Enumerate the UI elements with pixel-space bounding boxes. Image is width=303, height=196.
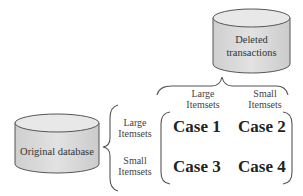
original-database-cylinder [15, 114, 99, 173]
row-header-small-line1: Small [112, 155, 158, 166]
deleted-label-line2: transactions [213, 46, 290, 59]
column-header-small-line2: Itemsets [240, 99, 290, 110]
column-header-large: Large Itemsets [178, 88, 228, 110]
column-header-small-line1: Small [240, 88, 290, 99]
row-header-large-line1: Large [112, 117, 158, 128]
deleted-label-line1: Deleted [213, 33, 290, 46]
column-header-large-line1: Large [178, 88, 228, 99]
original-database-label: Original database [15, 145, 99, 158]
column-header-large-line2: Itemsets [178, 99, 228, 110]
row-header-large: Large Itemsets [112, 117, 158, 139]
case-3: Case 3 [173, 157, 221, 177]
case-2: Case 2 [238, 117, 286, 137]
matrix-left-bracket [161, 112, 170, 184]
case-4: Case 4 [238, 157, 286, 177]
row-header-small-line2: Itemsets [112, 166, 158, 177]
case-1: Case 1 [173, 117, 221, 137]
deleted-transactions-label: Deleted transactions [213, 33, 290, 59]
row-header-small: Small Itemsets [112, 155, 158, 177]
column-header-small: Small Itemsets [240, 88, 290, 110]
row-header-large-line2: Itemsets [112, 128, 158, 139]
